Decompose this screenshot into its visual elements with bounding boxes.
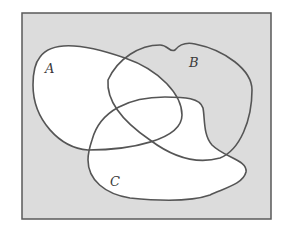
venn-diagram: A B C — [0, 0, 287, 225]
set-b-label: B — [188, 55, 199, 70]
set-c-label: C — [110, 174, 120, 189]
set-a-label: A — [44, 61, 54, 76]
